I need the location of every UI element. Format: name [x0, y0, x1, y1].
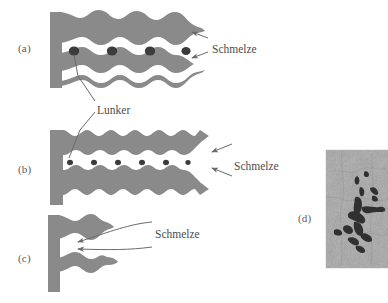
- callout-lunker: Lunker: [97, 104, 130, 116]
- panel-c-arm-upper: [56, 214, 114, 240]
- panel-c-graphic: [48, 214, 152, 292]
- panel-label-c: (c): [18, 252, 31, 264]
- panel-c-arm-lower-tip: [104, 257, 118, 265]
- panel-label-a: (a): [18, 42, 31, 54]
- panel-b-graphic: [50, 112, 232, 205]
- panel-b-arm-lower: [58, 165, 209, 195]
- panel-b-arm-upper: [58, 130, 209, 155]
- figure-root: (a) (b) (c) (d) Schmelze Lunker Schmelze…: [0, 0, 388, 303]
- panel-b-pores: [67, 160, 191, 166]
- panel-b-schmelze-arrows: [212, 144, 232, 176]
- panel-a-schmelze-arrows: [192, 32, 208, 58]
- panel-label-d: (d): [298, 212, 311, 224]
- micrograph-image: [326, 150, 388, 268]
- micrograph-panel-d: [326, 150, 388, 268]
- panel-a-graphic: [50, 10, 208, 101]
- callout-schmelze-a: Schmelze: [212, 43, 257, 55]
- panel-label-b: (b): [18, 163, 31, 175]
- callout-schmelze-b: Schmelze: [234, 160, 279, 172]
- callout-schmelze-c: Schmelze: [155, 228, 200, 240]
- panel-a-arm-upper: [58, 10, 205, 45]
